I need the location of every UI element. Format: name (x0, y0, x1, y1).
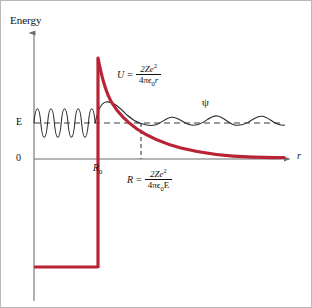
turning-point-equation-numerator: 2Ze2 (145, 167, 172, 180)
turning-point-numerator-exponent: 2 (164, 167, 167, 174)
potential-equation: U = 2Ze2 4πϵ0r (117, 62, 161, 87)
potential-barrier-diagram (1, 1, 312, 308)
turning-point-numerator-main: 2Ze (150, 169, 164, 179)
wavefunction-outside-well (141, 116, 285, 126)
potential-equation-fraction: 2Ze2 4πϵ0r (136, 62, 161, 87)
y-axis-title: Energy (10, 15, 42, 26)
turning-point-equation-denominator: 4πϵ0E (145, 180, 172, 192)
barrier-radius-label: R0 (93, 164, 102, 176)
y-axis-tick-zero: 0 (16, 153, 21, 163)
potential-numerator-main: 2Ze (140, 64, 154, 74)
wavefunction-label: ψ (202, 97, 209, 108)
turning-point-denominator-main: 4πϵ (148, 180, 161, 190)
potential-equation-numerator: 2Ze2 (136, 62, 161, 75)
physics-figure: Energy E 0 r R0 ψ U = 2Ze2 4πϵ0r R = 2Ze… (0, 0, 312, 308)
turning-point-equation: R = 2Ze2 4πϵ0E (127, 167, 172, 192)
potential-denominator-tail: r (155, 75, 159, 85)
potential-denominator-main: 4πϵ (139, 75, 152, 85)
turning-point-equation-operator: = (136, 174, 142, 185)
turning-point-denominator-tail: E (164, 180, 170, 190)
potential-numerator-exponent: 2 (154, 62, 157, 69)
potential-equation-lhs: U (117, 69, 124, 80)
barrier-radius-subscript: 0 (99, 168, 103, 176)
turning-point-equation-lhs: R (127, 174, 133, 185)
turning-point-equation-fraction: 2Ze2 4πϵ0E (145, 167, 172, 192)
potential-equation-operator: = (127, 69, 133, 80)
y-axis-tick-energy: E (16, 117, 22, 127)
potential-equation-denominator: 4πϵ0r (136, 75, 161, 87)
x-axis-label: r (297, 151, 301, 161)
